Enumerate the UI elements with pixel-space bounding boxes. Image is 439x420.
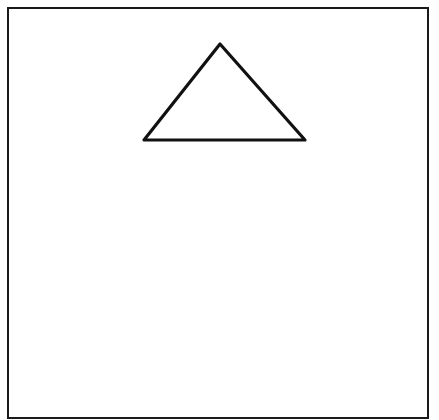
diagram-canvas [0, 0, 439, 420]
